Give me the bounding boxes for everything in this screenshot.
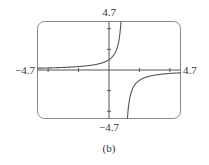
figure-caption: (b) [103,142,116,155]
x-min-label: −4.7 [15,64,35,76]
y-min-label: −4.7 [99,121,119,133]
plot-area [38,22,181,119]
curve-right-branch [127,73,180,119]
y-max-label: 4.7 [102,6,116,18]
graph-figure: 4.7 −4.7 −4.7 4.7 (b) [0,0,209,165]
x-max-label: 4.7 [183,64,197,76]
